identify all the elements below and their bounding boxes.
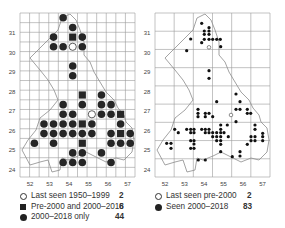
filled-circle-marker xyxy=(69,159,77,167)
filled-square-marker xyxy=(79,140,86,147)
filled-circle-marker xyxy=(204,131,207,134)
filled-circle-marker xyxy=(69,72,77,80)
x-tick-label: 54 xyxy=(66,181,73,187)
filled-square-marker xyxy=(117,111,124,118)
filled-circle-marker xyxy=(215,131,218,134)
filled-circle-marker xyxy=(192,131,195,134)
filled-circle-marker xyxy=(50,120,58,128)
filled-square-marker xyxy=(117,130,124,137)
filled-circle-marker xyxy=(219,143,222,146)
open-circle-marker xyxy=(88,111,95,118)
filled-circle-marker xyxy=(261,135,264,138)
open-circle-icon xyxy=(155,193,162,200)
filled-circle-marker xyxy=(219,38,222,41)
filled-circle-marker xyxy=(78,33,86,41)
grid-lines xyxy=(20,13,135,177)
filled-circle-marker xyxy=(126,130,134,138)
filled-circle-marker xyxy=(226,123,229,126)
filled-circle-marker xyxy=(107,110,115,118)
open-circle-marker xyxy=(207,46,211,50)
filled-circle-marker xyxy=(59,159,67,167)
filled-square-icon xyxy=(20,204,26,210)
legend-label: Pre-2000 and 2000–2018 xyxy=(31,202,124,213)
filled-circle-marker xyxy=(238,100,241,103)
y-tick-label: 28 xyxy=(9,89,16,95)
filled-circle-marker xyxy=(211,115,214,118)
filled-circle-marker xyxy=(249,139,252,142)
filled-circle-marker xyxy=(215,139,218,142)
filled-circle-marker xyxy=(40,130,48,138)
filled-circle-marker xyxy=(200,128,203,131)
legend-row-pre-2000-and-2000-2018: Pre-2000 and 2000–2018 6 xyxy=(20,202,140,213)
y-tick-label: 26 xyxy=(144,128,151,134)
filled-circle-marker xyxy=(222,131,225,134)
filled-circle-marker xyxy=(219,150,222,153)
filled-circle-marker xyxy=(204,158,207,161)
x-tick-label: 53 xyxy=(46,181,53,187)
filled-circle-marker xyxy=(59,101,67,109)
filled-circle-marker xyxy=(69,62,77,70)
filled-square-marker xyxy=(79,91,86,98)
filled-circle-marker xyxy=(192,142,195,145)
filled-circle-marker xyxy=(197,158,200,161)
x-tick-label: 57 xyxy=(259,181,266,187)
filled-circle-marker xyxy=(249,135,252,138)
filled-circle-marker xyxy=(59,120,67,128)
filled-circle-marker xyxy=(50,139,58,147)
legend-label: Seen 2000–2018 xyxy=(166,202,228,213)
filled-circle-marker xyxy=(169,147,172,150)
y-tick-label: 27 xyxy=(9,108,16,114)
filled-circle-marker xyxy=(78,43,86,51)
filled-circle-marker xyxy=(246,108,249,111)
filled-circle-marker xyxy=(98,101,106,109)
x-tick-label: 55 xyxy=(220,181,227,187)
filled-circle-marker xyxy=(207,69,210,72)
filled-circle-marker xyxy=(107,139,115,147)
legend-label: Last seen 1950–1999 xyxy=(31,191,110,202)
filled-circle-marker xyxy=(69,24,77,32)
legend-count: 2 xyxy=(119,191,124,202)
left-map-panel: 5253545556573130292827262524 Last seen 1… xyxy=(0,0,140,228)
y-tick-label: 24 xyxy=(144,167,151,173)
filled-circle-marker xyxy=(69,120,77,128)
right-map-panel: 5253545556573130292827262524 Last seen p… xyxy=(135,0,285,228)
filled-circle-marker xyxy=(78,159,86,167)
legend-row-last-seen-pre-2000: Last seen pre-2000 2 xyxy=(155,191,275,202)
open-circle-marker xyxy=(229,113,233,117)
filled-square-marker xyxy=(69,34,76,41)
filled-circle-marker xyxy=(219,135,222,138)
y-tick-label: 29 xyxy=(9,69,16,75)
filled-circle-marker xyxy=(249,112,252,115)
x-tick-label: 54 xyxy=(201,181,208,187)
filled-circle-marker xyxy=(59,130,67,138)
filled-circle-marker xyxy=(253,135,256,138)
filled-circle-icon xyxy=(20,214,27,221)
filled-circle-marker xyxy=(211,38,214,41)
filled-circle-marker xyxy=(117,139,125,147)
filled-circle-marker xyxy=(207,77,210,80)
filled-circle-marker xyxy=(246,143,249,146)
filled-circle-marker xyxy=(219,45,222,48)
filled-circle-marker xyxy=(253,139,256,142)
filled-circle-marker xyxy=(69,130,77,138)
filled-circle-marker xyxy=(203,38,206,41)
filled-circle-marker xyxy=(227,135,230,138)
filled-circle-marker xyxy=(215,100,218,103)
filled-circle-marker xyxy=(234,92,237,95)
filled-circle-marker xyxy=(98,149,106,157)
x-tick-label: 56 xyxy=(105,181,112,187)
x-tick-label: 53 xyxy=(181,181,188,187)
y-tick-label: 24 xyxy=(9,167,16,173)
x-tick-label: 52 xyxy=(27,181,34,187)
filled-circle-marker xyxy=(192,139,195,142)
filled-circle-marker xyxy=(177,131,180,134)
filled-circle-marker xyxy=(207,26,210,29)
filled-circle-marker xyxy=(173,128,176,131)
x-tick-label: 52 xyxy=(162,181,169,187)
y-tick-label: 25 xyxy=(144,147,151,153)
filled-circle-marker xyxy=(59,110,67,118)
legend-count: 2 xyxy=(247,191,252,202)
y-tick-label: 31 xyxy=(9,30,16,36)
filled-circle-marker xyxy=(207,131,210,134)
filled-circle-marker xyxy=(185,128,188,131)
